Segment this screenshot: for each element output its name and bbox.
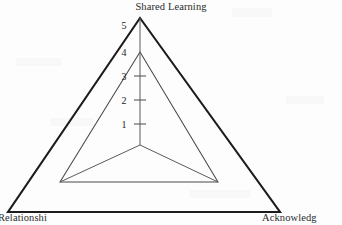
tick-label-2: 2	[122, 95, 127, 106]
tick-label-5: 5	[122, 20, 127, 31]
radar-chart: 54321 Shared Learning Relationshi Acknow…	[0, 0, 342, 225]
chart-title: Shared Learning	[0, 1, 342, 12]
outer-boundary-polygon	[8, 18, 280, 212]
axis-label-relationship: Relationshi	[0, 212, 47, 223]
axis-label-acknowledgement: Acknowledg	[262, 212, 317, 223]
tick-label-4: 4	[122, 47, 127, 58]
tick-labels: 54321	[122, 20, 127, 130]
data-polygon	[60, 52, 218, 182]
radar-chart-canvas: 54321	[0, 0, 342, 225]
tick-label-1: 1	[122, 119, 127, 130]
tick-label-3: 3	[122, 71, 127, 82]
